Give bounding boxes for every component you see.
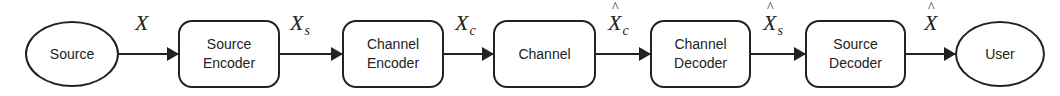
- arrow-source-to-source-encoder: [119, 53, 178, 55]
- edge-label-x-s: Xs: [290, 10, 310, 39]
- channel-label: Channel: [518, 45, 570, 64]
- arrow-channel-encoder-to-channel: [444, 53, 493, 55]
- edge-label-x-hat-c: Xc: [608, 10, 629, 39]
- source-decoder-label: Source Decoder: [829, 35, 882, 73]
- source-label: Source: [50, 45, 94, 64]
- user-label: User: [985, 45, 1015, 64]
- channel-encoder-node: Channel Encoder: [342, 20, 444, 88]
- source-encoder-label: Source Encoder: [203, 35, 255, 73]
- arrow-channel-to-channel-decoder: [596, 53, 650, 55]
- source-node: Source: [25, 21, 119, 87]
- edge-label-x: X: [135, 10, 149, 39]
- arrow-channel-decoder-to-source-decoder: [751, 53, 805, 55]
- channel-decoder-label: Channel Decoder: [674, 35, 727, 73]
- edge-label-x-hat-s: Xs: [763, 10, 783, 39]
- edge-label-x-hat: X: [924, 10, 938, 39]
- channel-encoder-label: Channel Encoder: [367, 35, 419, 73]
- arrow-source-encoder-to-channel-encoder: [280, 53, 342, 55]
- source-encoder-node: Source Encoder: [178, 20, 280, 88]
- arrow-source-decoder-to-user: [906, 53, 955, 55]
- channel-decoder-node: Channel Decoder: [650, 20, 751, 88]
- channel-node: Channel: [493, 20, 596, 88]
- edge-label-x-c: Xc: [455, 10, 476, 39]
- source-decoder-node: Source Decoder: [805, 20, 906, 88]
- user-node: User: [955, 21, 1045, 87]
